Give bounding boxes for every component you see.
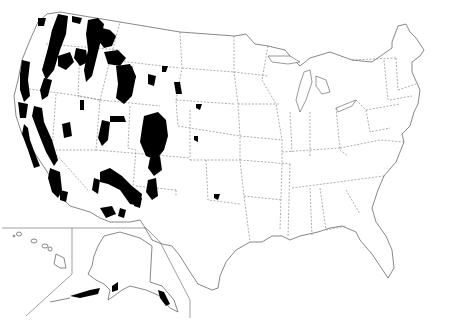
hawaii-inset <box>13 232 66 268</box>
alaska-inset <box>50 232 178 312</box>
hawaii-maui <box>42 244 48 248</box>
region-uinta <box>110 116 126 122</box>
region-alaska-peninsula <box>70 288 100 298</box>
hawaii-oahu <box>31 239 37 243</box>
us-map <box>0 0 466 320</box>
hawaii-molokai <box>48 247 52 251</box>
hawaii-niihau <box>13 235 15 237</box>
region-socal-mountains <box>48 168 62 198</box>
alaska-aleutians <box>50 298 70 302</box>
hawaii-big-island <box>54 254 66 268</box>
hawaii-kauai <box>17 232 22 236</box>
region-nevada-2 <box>80 100 84 110</box>
